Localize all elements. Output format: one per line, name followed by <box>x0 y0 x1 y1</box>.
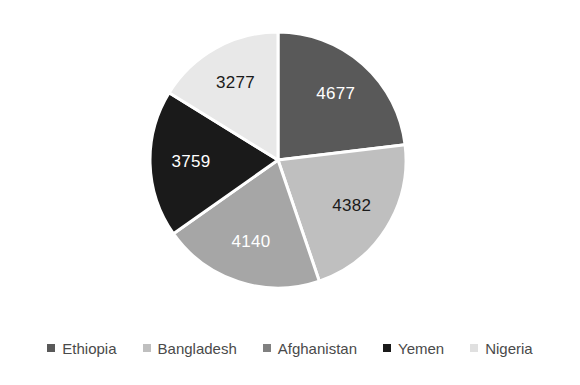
legend-item-nigeria[interactable]: Nigeria <box>470 341 533 356</box>
pie-chart: 46774382414037593277 EthiopiaBangladeshA… <box>0 0 580 385</box>
pie-data-label-nigeria: 3277 <box>216 73 255 92</box>
legend-item-yemen[interactable]: Yemen <box>383 341 444 356</box>
legend-swatch-icon <box>263 344 271 352</box>
legend-swatch-icon <box>470 344 478 352</box>
legend-item-bangladesh[interactable]: Bangladesh <box>143 341 237 356</box>
pie-data-label-ethiopia: 4677 <box>316 84 355 103</box>
pie-data-label-afghanistan: 4140 <box>232 232 271 251</box>
legend-swatch-icon <box>47 344 55 352</box>
pie-data-label-yemen: 3759 <box>171 152 210 171</box>
pie-plot-area: 46774382414037593277 <box>0 0 580 310</box>
pie-svg: 46774382414037593277 <box>0 0 580 310</box>
legend-item-ethiopia[interactable]: Ethiopia <box>47 341 116 356</box>
legend-item-label: Bangladesh <box>158 341 237 356</box>
legend-swatch-icon <box>383 344 391 352</box>
legend-item-label: Yemen <box>398 341 444 356</box>
pie-data-label-bangladesh: 4382 <box>332 196 371 215</box>
chart-legend: EthiopiaBangladeshAfghanistanYemenNigeri… <box>0 330 580 366</box>
legend-swatch-icon <box>143 344 151 352</box>
legend-item-afghanistan[interactable]: Afghanistan <box>263 341 357 356</box>
legend-item-label: Afghanistan <box>278 341 357 356</box>
legend-item-label: Ethiopia <box>62 341 116 356</box>
legend-item-label: Nigeria <box>485 341 533 356</box>
